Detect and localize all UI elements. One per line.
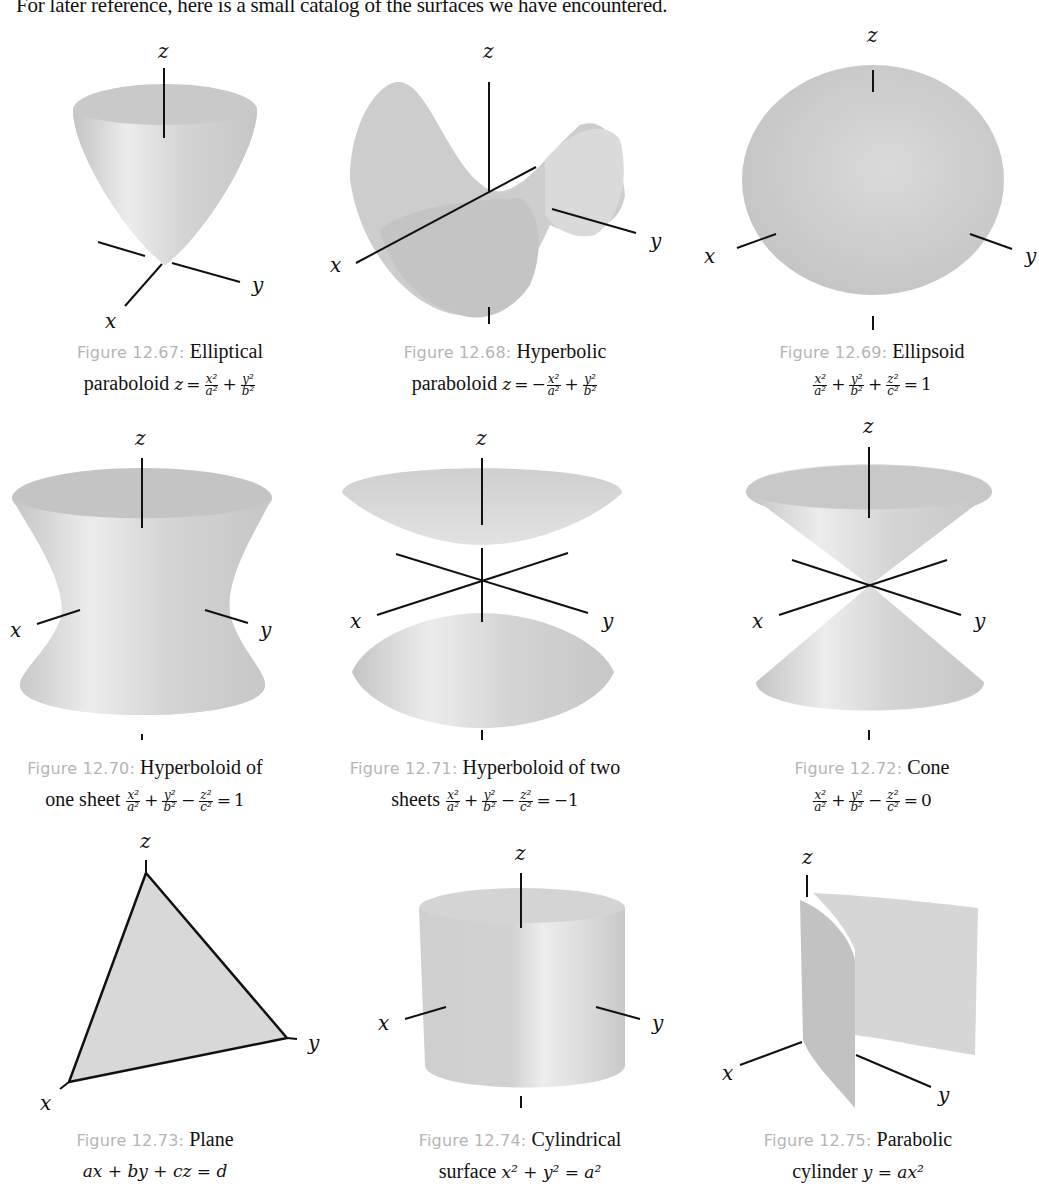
svg-text:z: z — [139, 829, 151, 853]
svg-text:y: y — [651, 1011, 664, 1035]
caption-12-74: Figure 12.74: Cylindrical surface x² + y… — [390, 1124, 650, 1187]
caption-12-68: Figure 12.68: Hyperbolic paraboloid z=−x… — [355, 336, 655, 399]
svg-text:x: x — [704, 244, 715, 268]
hyperbolic-paraboloid-graphic: z y x — [320, 30, 690, 330]
svg-text:z: z — [801, 845, 813, 869]
svg-text:z: z — [475, 426, 487, 450]
svg-text:x: x — [350, 609, 361, 633]
elliptical-paraboloid-graphic: z y x — [0, 30, 340, 330]
cone-graphic: z y x — [700, 400, 1039, 740]
svg-text:z: z — [866, 23, 878, 47]
svg-text:x: x — [105, 309, 116, 333]
hyperboloid-two-sheets-graphic: z y x — [330, 400, 680, 740]
caption-12-72: Figure 12.72: Cone x²a²+y²b²−z²c²=0 — [722, 752, 1022, 815]
ellipsoid-graphic: z y x — [690, 20, 1039, 330]
svg-text:x: x — [10, 618, 21, 642]
figure-plane: z y x — [0, 810, 350, 1120]
caption-12-67: Figure 12.67: Elliptical paraboloid z=x²… — [20, 336, 320, 399]
caption-12-75: Figure 12.75: Parabolic cylinder y = ax² — [728, 1124, 988, 1187]
parabolic-cylinder-graphic: z y x — [700, 810, 1039, 1120]
figure-cone: z y x — [700, 400, 1039, 740]
hyperboloid-one-sheet-graphic: z y x — [0, 400, 340, 740]
svg-text:y: y — [937, 1083, 950, 1107]
figure-elliptical-paraboloid: z y x — [0, 30, 340, 330]
caption-12-70: Figure 12.70: Hyperboloid of one sheet x… — [0, 752, 290, 815]
svg-text:x: x — [40, 1091, 51, 1115]
caption-12-69: Figure 12.69: Ellipsoid x²a²+y²b²+z²c²=1 — [722, 336, 1022, 399]
svg-text:z: z — [134, 426, 146, 450]
svg-text:y: y — [259, 618, 272, 642]
svg-text:y: y — [601, 609, 614, 633]
svg-text:y: y — [251, 273, 264, 297]
cylindrical-surface-graphic: z y x — [360, 810, 700, 1120]
svg-text:x: x — [752, 609, 763, 633]
svg-text:x: x — [722, 1061, 733, 1085]
svg-text:y: y — [649, 229, 662, 253]
caption-12-73: Figure 12.73: Plane ax + by + cz = d — [35, 1124, 275, 1186]
svg-text:x: x — [330, 253, 341, 277]
svg-text:z: z — [157, 39, 169, 63]
figure-parabolic-cylinder: z y x — [700, 810, 1039, 1120]
figure-ellipsoid: z y x — [690, 20, 1039, 330]
svg-text:y: y — [1024, 244, 1037, 268]
caption-12-71: Figure 12.71: Hyperboloid of two sheets … — [330, 752, 640, 815]
figure-cylindrical-surface: z y x — [360, 810, 700, 1120]
figure-hyperboloid-one-sheet: z y x — [0, 400, 340, 740]
svg-text:y: y — [973, 609, 986, 633]
figure-hyperbolic-paraboloid: z y x — [320, 30, 690, 330]
figure-hyperboloid-two-sheets: z y x — [330, 400, 680, 740]
svg-text:x: x — [378, 1011, 389, 1035]
svg-text:y: y — [307, 1031, 320, 1055]
svg-text:z: z — [482, 39, 494, 63]
svg-text:z: z — [862, 414, 874, 438]
svg-text:z: z — [514, 841, 526, 865]
intro-text: For later reference, here is a small cat… — [16, 0, 667, 18]
plane-graphic: z y x — [0, 810, 350, 1120]
